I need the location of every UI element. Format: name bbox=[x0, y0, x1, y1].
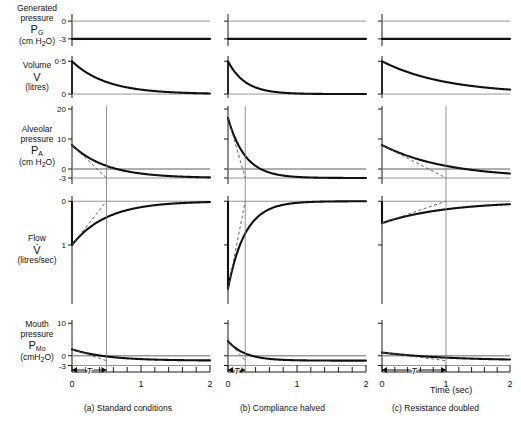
y-tick-label: -3 bbox=[59, 174, 67, 183]
x-tick-label: 1 bbox=[138, 379, 143, 389]
panel-volume-standard: 0·50 bbox=[54, 56, 210, 99]
row-label-line1: Generated bbox=[17, 3, 57, 13]
panel-flow-standard: 01 bbox=[62, 196, 210, 304]
data-curve bbox=[72, 61, 210, 93]
caption-text: Compliance halved bbox=[253, 403, 325, 413]
row-units-tail: O) bbox=[46, 36, 55, 46]
x-axis-title: Time (sec) bbox=[430, 385, 472, 395]
time-axis-compliance-halved: 012T bbox=[225, 365, 368, 389]
panel-volume-compliance-halved bbox=[224, 56, 366, 98]
row-label-line1: Flow bbox=[28, 233, 46, 243]
caption-text: Standard conditions bbox=[97, 403, 172, 413]
tangent-dashed-line bbox=[228, 201, 245, 288]
x-tick-label: 0 bbox=[225, 379, 230, 389]
caption-text: Resistance doubled bbox=[404, 403, 479, 413]
row-units-tail: O) bbox=[44, 352, 53, 362]
caption-letter: (a) bbox=[84, 403, 94, 413]
x-tick-label: 0 bbox=[379, 379, 384, 389]
row-label-mouth-pressure: Mouth pressure PMo (cmH2O) bbox=[4, 320, 70, 364]
row-label-generated-pressure: Generated pressure PG (cm H2O) bbox=[6, 4, 68, 48]
panel-generated-pressure-standard: 0-3 bbox=[59, 14, 210, 46]
y-tick-label: 0 bbox=[62, 197, 67, 206]
panel-mouth-pressure-compliance-halved bbox=[224, 320, 366, 372]
row-symbol: V̇ bbox=[33, 244, 40, 256]
panel-alveolar-pressure-standard: 20100-3 bbox=[57, 105, 210, 184]
data-curve bbox=[72, 202, 210, 245]
tangent-dashed-line bbox=[72, 201, 107, 245]
row-units: (litres) bbox=[25, 82, 49, 92]
x-tick-label: 2 bbox=[363, 379, 368, 389]
row-label-line2: pressure bbox=[20, 13, 53, 23]
x-tick-label: 0 bbox=[69, 379, 74, 389]
data-curve bbox=[228, 201, 366, 288]
row-units: (cm H bbox=[19, 157, 42, 167]
panel-volume-resistance-doubled bbox=[378, 56, 510, 98]
y-tick-label: 20 bbox=[57, 105, 66, 114]
row-units-tail: O) bbox=[46, 157, 55, 167]
data-curve bbox=[228, 341, 366, 360]
row-units: (litres/sec) bbox=[17, 255, 56, 265]
data-curve bbox=[382, 61, 510, 89]
caption-letter: (c) bbox=[392, 403, 402, 413]
column-caption-compliance-halved: (b) Compliance halved bbox=[240, 403, 325, 413]
plot-canvas: 0-30·5020100-301100-3012T012T012T bbox=[0, 0, 521, 422]
data-curve bbox=[72, 145, 210, 177]
x-tick-label: 2 bbox=[207, 379, 212, 389]
panel-generated-pressure-compliance-halved bbox=[224, 14, 366, 46]
x-tick-label: 2 bbox=[507, 379, 512, 389]
row-label-line1: Mouth bbox=[25, 319, 49, 329]
row-symbol: P bbox=[31, 23, 38, 35]
data-curve bbox=[72, 349, 210, 360]
panel-alveolar-pressure-compliance-halved bbox=[224, 106, 366, 184]
column-caption-resistance-doubled: (c) Resistance doubled bbox=[392, 403, 479, 413]
panel-generated-pressure-resistance-doubled bbox=[378, 14, 510, 46]
x-tick-label: 1 bbox=[294, 379, 299, 389]
caption-letter: (b) bbox=[240, 403, 250, 413]
row-label-line1: Volume bbox=[23, 60, 51, 70]
panel-flow-resistance-doubled bbox=[378, 196, 510, 304]
time-axis-standard: 012T bbox=[69, 365, 212, 389]
panel-flow-compliance-halved bbox=[224, 196, 366, 304]
row-label-line2: pressure bbox=[20, 134, 53, 144]
row-units: (cm H bbox=[19, 36, 42, 46]
panel-alveolar-pressure-resistance-doubled bbox=[378, 106, 510, 184]
row-symbol: V bbox=[33, 71, 40, 83]
row-label-flow: Flow V̇ (litres/sec) bbox=[4, 234, 70, 266]
panel-mouth-pressure-resistance-doubled bbox=[378, 320, 510, 372]
figure-root: Generated pressure PG (cm H2O) Volume V … bbox=[0, 0, 521, 422]
row-units: (cmH bbox=[20, 352, 40, 362]
row-symbol: P bbox=[28, 339, 35, 351]
data-curve bbox=[228, 61, 366, 94]
row-label-line1: Alveolar bbox=[22, 124, 53, 134]
tangent-dashed-line bbox=[72, 145, 107, 178]
panel-mouth-pressure-standard: 100-3 bbox=[57, 319, 210, 372]
row-label-alveolar-pressure: Alveolar pressure PA (cm H2O) bbox=[6, 125, 68, 169]
row-label-line2: pressure bbox=[20, 329, 53, 339]
column-caption-standard: (a) Standard conditions bbox=[84, 403, 172, 413]
row-label-volume: Volume V (litres) bbox=[6, 61, 68, 93]
